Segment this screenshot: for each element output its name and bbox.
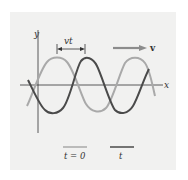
legend-label-t: t: [119, 151, 123, 161]
legend-label-t0: t = 0: [64, 151, 86, 161]
y-axis-label: y: [33, 29, 40, 39]
wave-diagram: vt v y x t = 0 t: [0, 0, 188, 180]
velocity-arrow-icon: [139, 45, 147, 51]
wave-t0-curve: [27, 58, 155, 112]
wave-t-curve: [28, 58, 149, 113]
vt-label: vt: [64, 36, 73, 46]
x-axis-label: x: [164, 80, 169, 90]
arrowhead-right-icon: [80, 47, 85, 51]
arrowhead-left-icon: [57, 47, 62, 51]
velocity-label: v: [149, 43, 156, 53]
